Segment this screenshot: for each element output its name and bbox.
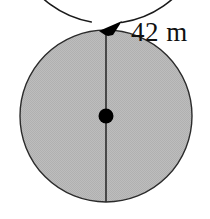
- dimension-label: 42 m: [131, 18, 188, 47]
- center-point-dot: [99, 109, 114, 124]
- circle-diagram-figure: 42 m: [0, 0, 210, 219]
